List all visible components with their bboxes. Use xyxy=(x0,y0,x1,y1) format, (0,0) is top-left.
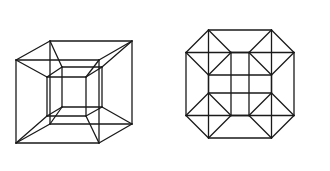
edge-octagonal xyxy=(272,93,295,116)
edge-octagonal xyxy=(209,53,232,76)
edge-octagonal xyxy=(209,116,232,139)
tesseract-diagram xyxy=(0,0,330,171)
edge-outer_front-inner_front xyxy=(16,116,47,143)
edge-octagonal xyxy=(186,93,209,116)
edge-inner_front-inner_back xyxy=(47,107,62,116)
tesseract-octagonal-figure xyxy=(186,30,294,138)
edge-outer_back-inner_back xyxy=(102,107,132,124)
edge-octagonal xyxy=(209,30,232,53)
edge-outer_front-outer_back xyxy=(99,124,132,143)
edge-octagonal xyxy=(249,30,272,53)
edge-octagonal xyxy=(272,30,295,53)
edge-octagonal xyxy=(209,93,232,116)
edge-octagonal xyxy=(249,93,272,116)
edge-outer_front-outer_back xyxy=(16,41,50,60)
edge-outer_front-inner_front xyxy=(86,116,99,143)
edge-outer_front-inner_front xyxy=(16,60,47,77)
edge-octagonal xyxy=(249,53,272,76)
edge-octagonal xyxy=(272,116,295,139)
edge-octagonal xyxy=(186,116,209,139)
edge-outer_back-inner_back xyxy=(50,41,62,67)
edge-inner_front-inner_back xyxy=(47,67,62,77)
edge-outer_front-outer_back xyxy=(16,124,50,143)
edge-octagonal xyxy=(249,116,272,139)
edge-outer_front-inner_front xyxy=(86,60,99,77)
edge-outer_back-inner_back xyxy=(102,41,132,67)
edge-octagonal xyxy=(272,53,295,76)
edge-outer_front-outer_back xyxy=(99,41,132,60)
edge-octagonal xyxy=(186,53,209,76)
edge-octagonal xyxy=(186,30,209,53)
tesseract-cube-in-cube-figure xyxy=(16,41,132,143)
